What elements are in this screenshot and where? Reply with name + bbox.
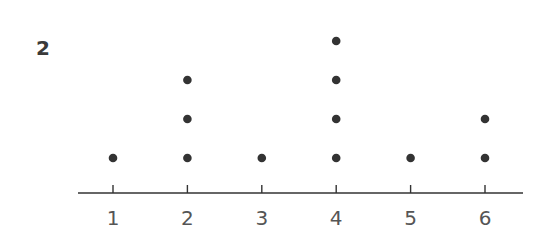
data-dot: [406, 154, 415, 163]
x-tick-label: 1: [107, 206, 120, 230]
x-tick-label: 5: [404, 206, 417, 230]
data-dot: [183, 76, 192, 85]
data-dot: [183, 115, 192, 124]
data-dot: [332, 76, 341, 85]
data-dot: [481, 154, 490, 163]
data-dot: [332, 37, 341, 46]
data-dot: [481, 115, 490, 124]
x-tick-label: 2: [181, 206, 194, 230]
data-dot: [183, 154, 192, 163]
x-tick-label: 3: [255, 206, 268, 230]
x-tick-label: 6: [479, 206, 492, 230]
dot-plot: 123456: [0, 0, 542, 239]
data-dot: [109, 154, 118, 163]
x-tick-label: 4: [330, 206, 343, 230]
data-dot: [332, 154, 341, 163]
data-dot: [332, 115, 341, 124]
data-dot: [258, 154, 267, 163]
